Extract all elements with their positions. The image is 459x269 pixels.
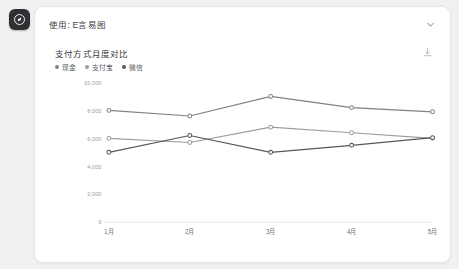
legend-item[interactable]: 微信: [122, 62, 143, 72]
data-point-marker[interactable]: [350, 143, 354, 147]
data-point-marker[interactable]: [350, 106, 354, 110]
x-axis-tick-label: 5月: [428, 228, 437, 236]
x-axis-tick-label: 2月: [185, 228, 194, 236]
app-root: 使用: E言易图 支付方式月度对比 现金: [0, 0, 459, 269]
y-axis-tick-label: 8,000: [87, 108, 101, 114]
x-axis-tick-label: 4月: [347, 228, 356, 236]
legend-label: 支付宝: [92, 62, 113, 72]
data-point-marker[interactable]: [269, 150, 273, 154]
y-axis-tick-label: 2,000: [87, 191, 101, 197]
chart-legend: 现金 支付宝 微信: [55, 62, 143, 72]
panel-title: 使用: E言易图: [49, 18, 106, 30]
legend-swatch: [55, 65, 59, 69]
chart-title: 支付方式月度对比: [55, 47, 129, 59]
legend-item[interactable]: 现金: [55, 62, 76, 72]
download-icon[interactable]: [420, 45, 434, 59]
y-axis-tick-label: 0: [98, 219, 101, 225]
data-point-marker[interactable]: [107, 108, 111, 112]
main-panel: 使用: E言易图 支付方式月度对比 现金: [34, 6, 451, 263]
data-point-marker[interactable]: [431, 136, 435, 140]
data-point-marker[interactable]: [431, 110, 435, 114]
y-axis-tick-label: 4,000: [87, 163, 101, 169]
series-line-现金: [109, 96, 433, 116]
y-axis-tick-label: 10,000: [84, 80, 101, 86]
legend-swatch: [122, 65, 126, 69]
legend-item[interactable]: 支付宝: [85, 62, 113, 72]
legend-swatch: [85, 65, 89, 69]
panel-header: 使用: E言易图: [35, 7, 450, 41]
data-point-marker[interactable]: [350, 131, 354, 135]
y-axis-tick-label: 6,000: [87, 136, 101, 142]
data-point-marker[interactable]: [269, 125, 273, 129]
chart-plot-area: 02,0004,0006,0008,00010,0001月2月3月4月5月: [47, 75, 438, 252]
x-axis-tick-label: 1月: [104, 228, 113, 236]
series-line-微信: [109, 136, 433, 153]
x-axis-tick-label: 3月: [266, 228, 275, 236]
data-point-marker[interactable]: [107, 150, 111, 154]
data-point-marker[interactable]: [188, 134, 192, 138]
chevron-down-icon[interactable]: [422, 16, 438, 32]
data-point-marker[interactable]: [188, 114, 192, 118]
data-point-marker[interactable]: [188, 141, 192, 145]
line-chart-svg: 02,0004,0006,0008,00010,0001月2月3月4月5月: [47, 75, 438, 252]
chart-card: 支付方式月度对比 现金 支付宝 微信: [47, 43, 438, 252]
app-logo-icon: [13, 13, 26, 26]
data-point-marker[interactable]: [269, 94, 273, 98]
app-logo-button[interactable]: [9, 9, 30, 30]
legend-label: 微信: [129, 62, 143, 72]
data-point-marker[interactable]: [107, 136, 111, 140]
legend-label: 现金: [62, 62, 76, 72]
